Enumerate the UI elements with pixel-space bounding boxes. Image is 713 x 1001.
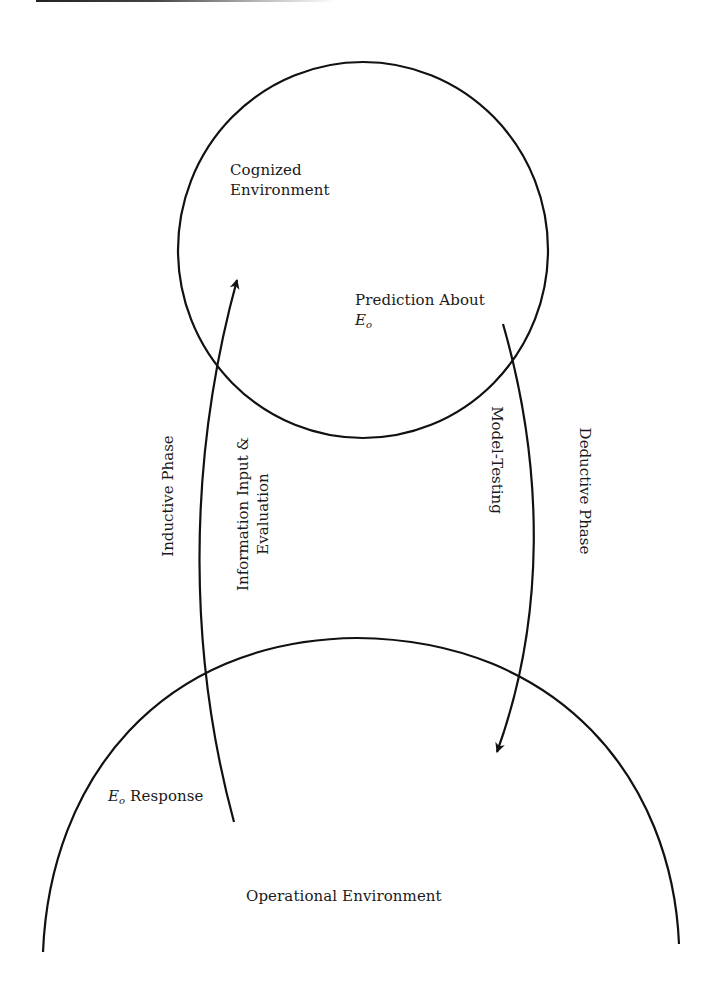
diagram-canvas: Cognized Environment Prediction About Eo… — [0, 0, 713, 1001]
information-input-label: Information Input & Evaluation — [233, 437, 273, 591]
prediction-label-line1: Prediction About — [355, 290, 485, 310]
information-input-line1: Information Input & — [233, 437, 253, 591]
information-input-line2: Evaluation — [253, 437, 273, 591]
deductive-phase-label: Deductive Phase — [575, 428, 595, 555]
prediction-label: Prediction About Eo — [355, 290, 485, 332]
deductive-arrow — [497, 324, 534, 752]
operational-environment-label: Operational Environment — [246, 886, 442, 906]
eo-response-text: Response — [130, 787, 204, 805]
inductive-arrow — [199, 280, 237, 822]
model-testing-label: Model-Testing — [487, 406, 507, 514]
eo-response-subscript: o — [119, 795, 125, 806]
cognized-environment-label: Cognized Environment — [230, 160, 330, 200]
eo-response-symbol: E — [108, 787, 119, 805]
cognized-label-line1: Cognized — [230, 160, 330, 180]
prediction-label-line2: Eo — [355, 310, 485, 332]
diagram-graphics — [0, 0, 713, 1001]
eo-subscript: o — [366, 319, 372, 330]
eo-response-label: Eo Response — [108, 786, 204, 808]
eo-symbol: E — [355, 311, 366, 329]
cognized-environment-circle — [178, 62, 548, 438]
inductive-phase-label: Inductive Phase — [158, 435, 178, 556]
cognized-label-line2: Environment — [230, 180, 330, 200]
